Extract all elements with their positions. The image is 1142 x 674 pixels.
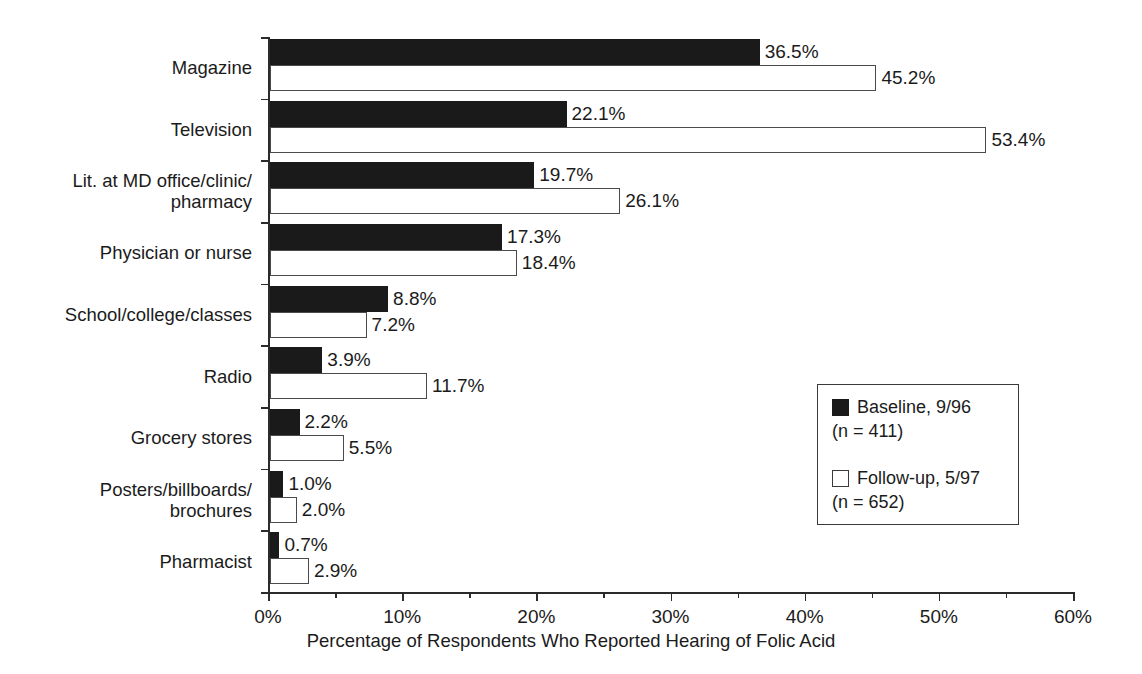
bar-baseline [270,471,283,497]
bar-value-label: 1.0% [288,474,331,493]
category-label: Television [0,119,252,140]
bar-baseline [270,409,300,435]
bar-value-label: 36.5% [765,42,819,61]
category-tick [261,407,268,409]
category-tick [261,37,268,39]
bar-value-label: 2.0% [302,500,345,519]
bar-baseline [270,39,760,65]
category-label: School/college/classes [0,304,252,325]
bar-baseline [270,162,534,188]
category-tick [261,99,268,101]
bar-followup [270,373,427,399]
category-label: Magazine [0,57,252,78]
category-tick [261,284,268,286]
bar-value-label: 2.9% [314,561,357,580]
bar-value-label: 5.5% [349,438,392,457]
x-tick-major [402,592,404,601]
bar-group: 36.5%45.2% [268,37,1090,99]
x-tick-label: 30% [651,606,689,628]
bar-followup [270,250,517,276]
category-tick [261,160,268,162]
category-tick [261,592,268,594]
bar-value-label: 26.1% [625,191,679,210]
x-tick-label: 40% [786,606,824,628]
x-tick-label: 20% [517,606,555,628]
category-label: Pharmacist [0,551,252,572]
category-label-column: MagazineTelevisionLit. at MD office/clin… [0,37,260,592]
x-tick-minor [469,592,471,598]
bar-group: 8.8%7.2% [268,284,1090,346]
bar-followup [270,65,876,91]
category-tick [261,530,268,532]
bar-baseline [270,532,279,558]
bar-value-label: 11.7% [432,376,484,395]
x-tick-major [805,592,807,601]
bar-value-label: 17.3% [507,227,561,246]
x-tick-minor [872,592,874,598]
bar-group: 17.3%18.4% [268,222,1090,284]
bar-baseline [270,347,322,373]
x-tick-label: 50% [920,606,958,628]
x-tick-major [939,592,941,601]
bar-baseline [270,101,567,127]
bar-value-label: 53.4% [991,130,1045,149]
legend-entry-baseline: Baseline, 9/96 [832,397,971,418]
bar-value-label: 2.2% [305,412,348,431]
x-axis-title: Percentage of Respondents Who Reported H… [0,630,1142,652]
legend-label-followup: Follow-up, 5/97 [857,468,980,489]
legend-entry-followup: Follow-up, 5/97 [832,468,980,489]
bar-followup [270,312,367,338]
bar-baseline [270,286,388,312]
x-tick-minor [1006,592,1008,598]
legend-label-baseline: Baseline, 9/96 [857,397,971,418]
category-tick [261,469,268,471]
category-label: Lit. at MD office/clinic/ pharmacy [0,170,252,212]
bar-baseline [270,224,502,250]
bar-followup [270,497,297,523]
category-label: Grocery stores [0,427,252,448]
bar-followup [270,435,344,461]
x-tick-minor [738,592,740,598]
chart-legend: Baseline, 9/96 (n = 411) Follow-up, 5/97… [817,384,1019,525]
x-tick-minor [603,592,605,598]
bar-group: 22.1%53.4% [268,99,1090,161]
x-tick-major [268,592,270,601]
x-tick-major [1073,592,1075,601]
category-label: Physician or nurse [0,242,252,263]
legend-swatch-baseline-icon [832,399,849,416]
x-tick-minor [335,592,337,598]
bar-value-label: 3.9% [327,350,370,369]
legend-sub-followup: (n = 652) [832,492,905,513]
legend-sub-baseline: (n = 411) [832,421,903,442]
x-tick-label: 10% [383,606,421,628]
category-tick [261,345,268,347]
bar-followup [270,188,620,214]
x-tick-label: 0% [254,606,281,628]
bar-value-label: 7.2% [372,315,415,334]
bar-value-label: 8.8% [393,289,436,308]
category-label: Posters/billboards/ brochures [0,479,252,521]
category-tick [261,222,268,224]
x-tick-label: 60% [1054,606,1092,628]
legend-swatch-followup-icon [832,470,849,487]
bar-value-label: 45.2% [881,68,935,87]
bar-value-label: 18.4% [522,253,576,272]
bar-value-label: 19.7% [539,165,593,184]
x-tick-major [671,592,673,601]
bar-followup [270,558,309,584]
bar-value-label: 0.7% [284,535,327,554]
bar-group: 0.7%2.9% [268,530,1090,592]
bar-value-label: 22.1% [572,104,626,123]
bar-followup [270,127,986,153]
category-label: Radio [0,366,252,387]
bar-group: 19.7%26.1% [268,160,1090,222]
x-tick-major [536,592,538,601]
bar-chart-figure: MagazineTelevisionLit. at MD office/clin… [0,0,1142,674]
